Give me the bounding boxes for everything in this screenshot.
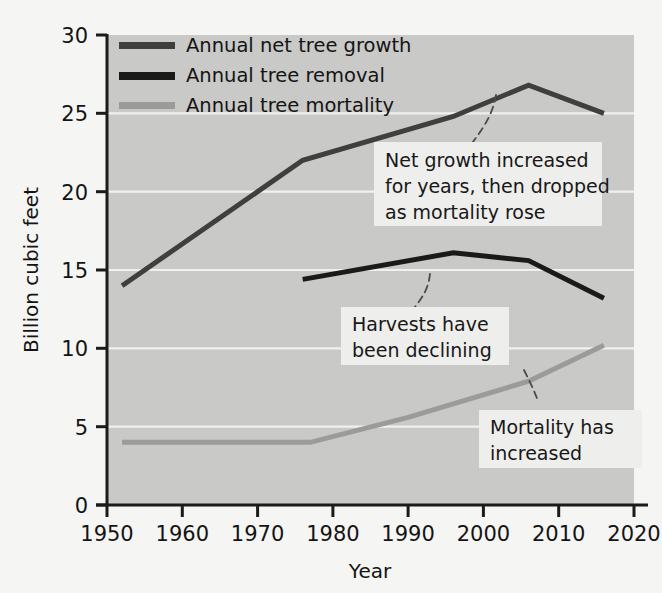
callout-line-net-growth-3: as mortality rose: [385, 201, 546, 223]
y-tick-label-20: 20: [61, 181, 88, 205]
y-tick-label-25: 25: [61, 102, 88, 126]
callout-line-mortality-2: increased: [490, 442, 582, 464]
y-tick-label-5: 5: [75, 416, 88, 440]
legend-label-annual-tree-removal: Annual tree removal: [186, 64, 385, 87]
callout-line-net-growth-1: Net growth increased: [385, 149, 589, 171]
x-tick-label-1980: 1980: [306, 522, 359, 546]
y-axis-title: Billion cubic feet: [19, 187, 43, 353]
legend-swatch-annual-tree-mortality: [119, 102, 175, 109]
annotation-mortality-note: Mortality has increased: [479, 410, 642, 468]
x-tick-label-1970: 1970: [231, 522, 284, 546]
legend-swatch-annual-tree-removal: [119, 72, 175, 80]
legend: Annual net tree growth Annual tree remov…: [119, 34, 411, 117]
annotation-net-growth-note: Net growth increased for years, then dro…: [374, 142, 610, 226]
callout-line-harvest-1: Harvests have: [352, 313, 489, 335]
x-tick-label-1950: 1950: [80, 522, 133, 546]
x-tick-label-2000: 2000: [457, 522, 510, 546]
legend-swatch-annual-net-tree-growth: [119, 42, 175, 49]
callout-line-mortality-1: Mortality has: [490, 416, 614, 438]
annotation-harvest-note: Harvests have been declining: [341, 307, 509, 365]
x-tick-label-2010: 2010: [532, 522, 585, 546]
callout-line-harvest-2: been declining: [352, 339, 492, 361]
y-tick-label-30: 30: [61, 24, 88, 48]
x-tick-label-1960: 1960: [156, 522, 209, 546]
x-tick-label-1990: 1990: [381, 522, 434, 546]
y-tick-label-10: 10: [61, 337, 88, 361]
line-chart-svg: 30 25 20 15 10 5 0 1950 1960 1970 1980 1…: [0, 0, 662, 593]
legend-label-annual-tree-mortality: Annual tree mortality: [186, 94, 394, 117]
y-tick-label-15: 15: [61, 259, 88, 283]
callout-line-net-growth-2: for years, then dropped: [385, 175, 610, 197]
x-tick-label-2020: 2020: [607, 522, 660, 546]
chart-figure: 30 25 20 15 10 5 0 1950 1960 1970 1980 1…: [0, 0, 662, 593]
y-tick-label-0: 0: [75, 494, 88, 518]
x-axis-title: Year: [348, 559, 392, 583]
legend-label-annual-net-tree-growth: Annual net tree growth: [186, 34, 411, 57]
